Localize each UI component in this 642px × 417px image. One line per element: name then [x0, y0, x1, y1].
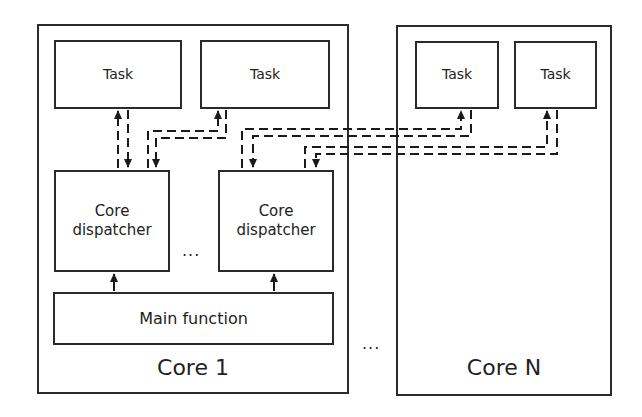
coren-task2-to-d2-down: [316, 110, 557, 167]
connection-lines: [0, 0, 642, 417]
task2-to-d1-down: [156, 110, 226, 167]
d2-to-coren-task1-up: [242, 111, 461, 168]
d2-to-coren-task2-up: [305, 111, 547, 168]
d1-to-task2-up: [148, 111, 218, 168]
coren-task1-to-d2-down: [253, 110, 471, 167]
